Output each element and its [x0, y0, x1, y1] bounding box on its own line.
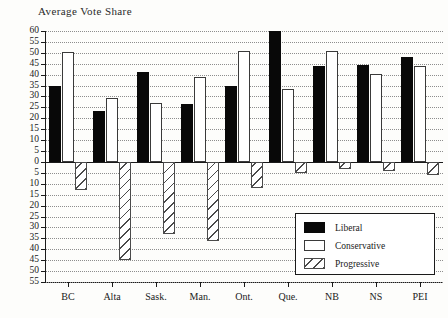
bar-liberal: [137, 72, 150, 161]
x-axis-tick-label: Man.: [190, 291, 211, 302]
x-axis-tick: [112, 282, 113, 287]
bar-conservative: [414, 66, 427, 162]
bar-liberal: [401, 57, 414, 162]
x-axis-tick: [332, 282, 333, 287]
y-axis-tick-label: 20: [30, 201, 40, 211]
y-axis-tick-label: 20: [30, 114, 40, 124]
y-axis-tick-label: 15: [30, 190, 40, 200]
y-axis-tick-label: 15: [30, 124, 40, 134]
y-axis-tick-label: 35: [30, 81, 40, 91]
y-axis-tick-label: 50: [30, 266, 40, 276]
y-axis-tick-label: 35: [30, 234, 40, 244]
bar-conservative: [238, 51, 251, 162]
x-axis-tick-label: NS: [370, 291, 383, 302]
x-axis-tick-label: Alta: [103, 291, 120, 302]
y-axis-tick-label: 30: [30, 92, 40, 102]
legend-label: Liberal: [335, 223, 362, 233]
legend-swatch-progressive: [304, 258, 325, 269]
y-axis-tick-label: 25: [30, 212, 40, 222]
y-axis-tick-label: 45: [30, 59, 40, 69]
bar-conservative: [326, 51, 339, 162]
y-axis-tick-label: 5: [34, 146, 39, 156]
chart-title: Average Vote Share: [38, 5, 132, 17]
y-axis-tick-label: 45: [30, 255, 40, 265]
y-axis-tick-label: 60: [30, 26, 40, 36]
x-axis-tick-label: BC: [61, 291, 74, 302]
x-axis-tick-label: Que.: [278, 291, 297, 302]
bar-group: [90, 31, 134, 282]
y-axis-tick-label: 55: [30, 37, 40, 47]
bar-progressive: [75, 162, 88, 190]
bar-liberal: [93, 111, 106, 162]
y-axis-tick-label: 10: [30, 135, 40, 145]
y-axis-tick-label: 30: [30, 223, 40, 233]
x-axis-tick-label: NB: [325, 291, 339, 302]
y-axis-tick: [41, 282, 46, 283]
y-axis-tick-label: 0: [34, 157, 39, 167]
legend-swatch-conservative: [304, 240, 325, 251]
bar-progressive: [119, 162, 132, 260]
legend-swatch-liberal: [304, 222, 325, 233]
bar-conservative: [194, 77, 207, 162]
legend-item: Conservative: [304, 237, 434, 254]
bar-progressive: [383, 162, 396, 171]
bar-progressive: [207, 162, 220, 241]
bar-conservative: [150, 103, 163, 162]
bar-group: [178, 31, 222, 282]
x-axis-tick-label: PEI: [413, 291, 428, 302]
legend-item: Liberal: [304, 219, 434, 236]
bar-group: [46, 31, 90, 282]
y-axis-tick-label: 55: [30, 277, 40, 287]
bar-progressive: [295, 162, 308, 173]
y-axis-tick-label: 5: [34, 168, 39, 178]
y-axis-tick-label: 40: [30, 245, 40, 255]
legend-item: Progressive: [304, 255, 434, 272]
legend-label: Conservative: [335, 241, 385, 251]
bar-conservative: [282, 89, 295, 162]
x-axis-tick: [200, 282, 201, 287]
bar-liberal: [269, 31, 282, 162]
bar-liberal: [313, 66, 326, 162]
bar-conservative: [106, 98, 119, 162]
bar-conservative: [370, 74, 383, 162]
chart-root: Average Vote Share 605550454035302520151…: [0, 0, 448, 318]
y-axis-tick-label: 25: [30, 103, 40, 113]
x-axis-tick: [68, 282, 69, 287]
x-axis-tick: [288, 282, 289, 287]
chart-legend: LiberalConservativeProgressive: [295, 213, 435, 275]
bar-liberal: [181, 104, 194, 162]
x-axis-tick-label: Sask.: [145, 291, 166, 302]
bar-progressive: [339, 162, 352, 169]
legend-label: Progressive: [335, 259, 379, 269]
x-axis-tick: [376, 282, 377, 287]
bar-progressive: [251, 162, 264, 188]
bar-group: [222, 31, 266, 282]
y-axis-tick-label: 50: [30, 48, 40, 58]
bar-progressive: [427, 162, 440, 175]
y-axis-tick-label: 40: [30, 70, 40, 80]
bar-conservative: [62, 52, 75, 162]
x-axis-tick: [420, 282, 421, 287]
y-axis-tick-label: 10: [30, 179, 40, 189]
bar-liberal: [49, 86, 62, 162]
bar-progressive: [163, 162, 176, 234]
bar-liberal: [225, 86, 238, 162]
bar-group: [134, 31, 178, 282]
bar-liberal: [357, 65, 370, 162]
x-axis-tick: [156, 282, 157, 287]
x-axis-tick: [244, 282, 245, 287]
x-axis-tick-label: Ont.: [235, 291, 253, 302]
